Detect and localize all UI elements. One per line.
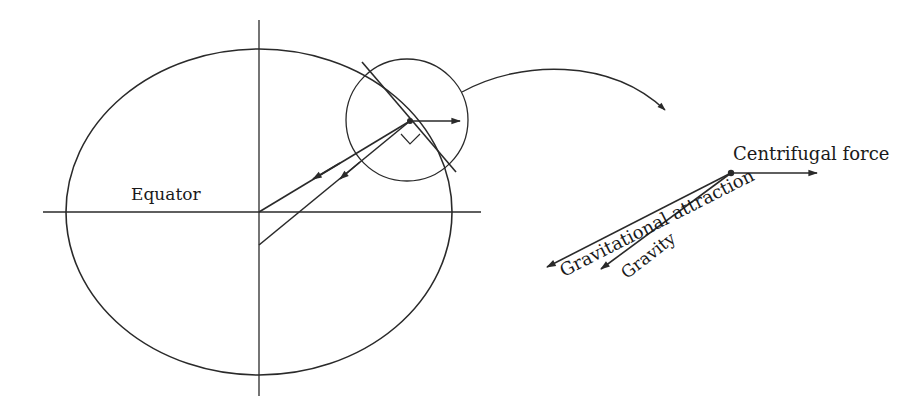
gravity-line — [259, 121, 410, 245]
gravity-arrowhead — [340, 162, 360, 179]
equator-label: Equator — [131, 184, 201, 204]
gravitational-attraction-arrowhead — [313, 163, 340, 179]
connector-curve-arrow — [462, 69, 665, 110]
right-angle-marker — [401, 134, 420, 144]
magnifier-circle — [346, 59, 468, 181]
centrifugal-force-label: Centrifugal force — [733, 143, 889, 164]
earth-gravity-diagram — [0, 0, 919, 416]
tangent-line — [362, 62, 456, 172]
